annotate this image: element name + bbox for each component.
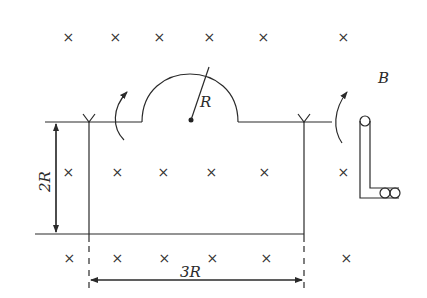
roller-1 (380, 188, 390, 198)
right-contact-mark (298, 114, 310, 122)
height-label: 2R (36, 171, 54, 193)
field-cross-bottom-4: × (261, 250, 273, 266)
field-cross-middle-4: × (259, 164, 271, 180)
field-label: B (377, 69, 389, 87)
field-cross-middle-2: × (158, 164, 170, 180)
crank-handle[interactable] (360, 116, 400, 198)
field-cross-bottom-5: × (341, 250, 353, 266)
field-cross-bottom-3: × (207, 250, 219, 266)
field-cross-top-4: × (258, 29, 270, 45)
field-cross-bottom-1: × (112, 250, 124, 266)
field-cross-top-2: × (154, 29, 166, 45)
left-contact-mark (83, 114, 95, 122)
right-rotation-arrow (336, 92, 347, 143)
field-cross-top-0: × (63, 29, 75, 45)
field-cross-bottom-0: × (64, 250, 76, 266)
diagram-canvas: ×××××××××××××××××× R 2R 3R B (0, 0, 427, 298)
crank-arm-inner (370, 121, 399, 188)
field-cross-top-3: × (204, 29, 216, 45)
roller-2 (390, 188, 400, 198)
field-cross-top-5: × (338, 29, 350, 45)
field-cross-middle-0: × (63, 164, 75, 180)
pulley-top (360, 116, 370, 126)
field-cross-middle-1: × (112, 164, 124, 180)
field-cross-bottom-2: × (159, 250, 171, 266)
crank-arm-outer (360, 121, 399, 198)
width-label: 3R (180, 263, 201, 281)
field-cross-middle-5: × (338, 164, 350, 180)
field-cross-top-1: × (110, 29, 122, 45)
field-cross-middle-3: × (206, 164, 218, 180)
left-rotation-arrow (115, 92, 127, 140)
field-crosses: ×××××××××××××××××× (63, 29, 353, 266)
semicircle-loop (142, 74, 238, 122)
radius-label: R (199, 93, 211, 111)
